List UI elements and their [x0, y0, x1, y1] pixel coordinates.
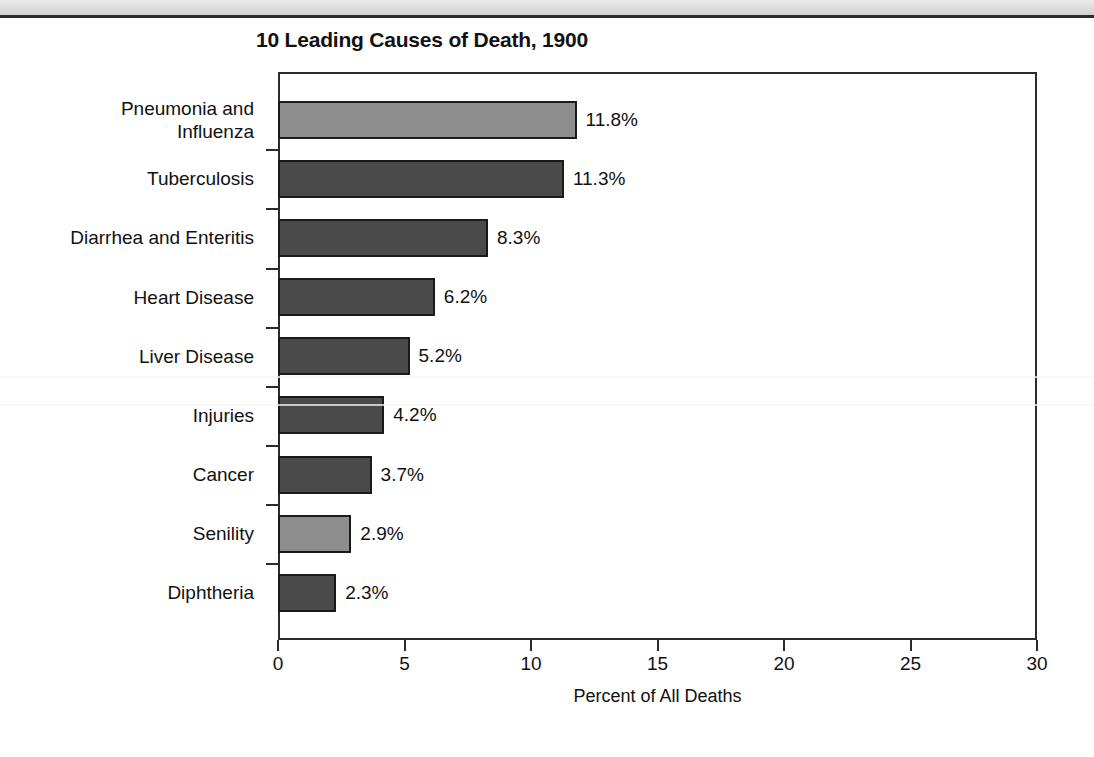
- chart-page: 10 Leading Causes of Death, 1900 Pneumon…: [0, 0, 1094, 757]
- y-axis-label: Diarrhea and Enteritis: [0, 226, 266, 249]
- y-axis-tick: [266, 149, 279, 151]
- x-axis-tick-label: 10: [520, 653, 541, 675]
- bar-value-label: 6.2%: [444, 286, 487, 308]
- y-axis-label: Liver Disease: [0, 345, 266, 368]
- x-axis-tick-label: 25: [900, 653, 921, 675]
- bar-value-label: 4.2%: [393, 404, 436, 426]
- y-axis-tick: [266, 504, 279, 506]
- x-axis-tick: [1036, 640, 1038, 651]
- bar: [278, 219, 488, 257]
- bar: [278, 456, 372, 494]
- scan-artifact-band: [0, 0, 1094, 15]
- bar-value-label: 2.9%: [360, 523, 403, 545]
- x-axis-tick: [530, 640, 532, 651]
- x-axis-tick: [657, 640, 659, 651]
- y-axis-label: Pneumonia and Influenza: [0, 97, 266, 143]
- y-axis-tick: [266, 386, 279, 388]
- y-axis-tick: [266, 327, 279, 329]
- x-axis-tick-label: 15: [647, 653, 668, 675]
- bar-row: 4.2%: [278, 396, 1037, 434]
- bar-value-label: 11.8%: [586, 109, 638, 131]
- y-axis-label: Senility: [0, 522, 266, 545]
- y-axis-label: Heart Disease: [0, 286, 266, 309]
- bar-value-label: 3.7%: [381, 464, 424, 486]
- bar-series: 11.8%11.3%8.3%6.2%5.2%4.2%3.7%2.9%2.3%: [278, 72, 1037, 640]
- bar: [278, 278, 435, 316]
- bar-row: 6.2%: [278, 278, 1037, 316]
- y-axis-label: Tuberculosis: [0, 167, 266, 190]
- x-axis-tick: [783, 640, 785, 651]
- y-axis-tick: [266, 445, 279, 447]
- y-axis-tick: [266, 208, 279, 210]
- bar: [278, 101, 577, 139]
- bar-row: 2.3%: [278, 574, 1037, 612]
- y-axis-label: Injuries: [0, 404, 266, 427]
- bar-row: 3.7%: [278, 456, 1037, 494]
- bar-row: 2.9%: [278, 515, 1037, 553]
- x-axis-tick-label: 5: [399, 653, 410, 675]
- x-axis-tick-label: 30: [1026, 653, 1047, 675]
- bar: [278, 574, 336, 612]
- bar-row: 5.2%: [278, 337, 1037, 375]
- scan-noise-2: [0, 404, 1094, 406]
- y-axis-label: Diphtheria: [0, 581, 266, 604]
- scan-noise-1: [0, 376, 1094, 378]
- x-axis-tick: [910, 640, 912, 651]
- x-axis-tick-label: 20: [773, 653, 794, 675]
- y-axis-label: Cancer: [0, 463, 266, 486]
- bar-value-label: 2.3%: [345, 582, 388, 604]
- y-axis-tick: [266, 268, 279, 270]
- bar-value-label: 11.3%: [573, 168, 625, 190]
- bar-value-label: 5.2%: [419, 345, 462, 367]
- bar-row: 11.8%: [278, 101, 1037, 139]
- bar: [278, 337, 410, 375]
- bar: [278, 396, 384, 434]
- bar: [278, 515, 351, 553]
- y-axis-category-labels: Pneumonia and InfluenzaTuberculosisDiarr…: [0, 72, 266, 640]
- x-axis-tick: [404, 640, 406, 651]
- x-axis-tick: [277, 640, 279, 651]
- bar-value-label: 8.3%: [497, 227, 540, 249]
- bar-row: 8.3%: [278, 219, 1037, 257]
- bar: [278, 160, 564, 198]
- page-top-rule: [0, 15, 1094, 18]
- y-axis-tick: [266, 563, 279, 565]
- bar-row: 11.3%: [278, 160, 1037, 198]
- chart-title: 10 Leading Causes of Death, 1900: [0, 28, 969, 52]
- x-axis-tick-label: 0: [273, 653, 284, 675]
- x-axis-title: Percent of All Deaths: [278, 686, 1037, 707]
